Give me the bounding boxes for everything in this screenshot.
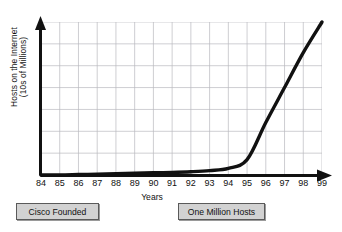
annotation-one-million-hosts: One Million Hosts	[178, 203, 265, 220]
x-tick-99: 99	[310, 178, 334, 188]
annotation-cisco-founded-label: Cisco Founded	[29, 207, 87, 217]
y-axis-label: Hosts on the Internet (10s of Millions)	[4, 0, 34, 141]
x-axis-label: Years	[122, 192, 182, 202]
x-axis-tick-labels: 84858687888990919293949596979899	[41, 178, 322, 191]
annotation-cisco-founded: Cisco Founded	[16, 203, 99, 220]
y-axis-label-line-2: (10s of Millions)	[19, 37, 28, 97]
y-axis-arrowhead	[35, 16, 46, 30]
annotation-one-million-hosts-label: One Million Hosts	[188, 207, 255, 217]
chart-figure: Hosts on the Internet (10s of Millions) …	[0, 0, 342, 232]
